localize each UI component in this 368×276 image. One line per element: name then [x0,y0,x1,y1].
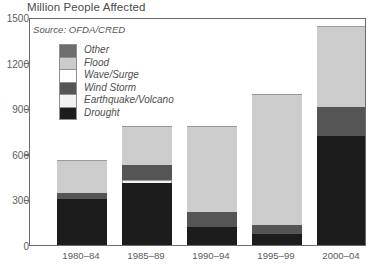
bar-segment-wind-storm [252,225,302,235]
bar-segment-drought [187,227,237,245]
legend-label: Wave/Surge [84,69,139,82]
x-tick-label-1995-99: 1995–99 [241,250,311,261]
bar-segment-drought [122,183,172,245]
legend-item-drought[interactable]: Drought [59,107,174,120]
bar-2000-04[interactable] [317,26,366,245]
bar-1980-84[interactable] [57,160,107,245]
bar-1990-94[interactable] [187,126,237,245]
legend-label: Flood [84,57,109,70]
y-tick-label-0: 0 [5,241,29,252]
legend-swatch-drought-icon [59,107,77,120]
x-tick-label-1990-94: 1990–94 [176,250,246,261]
legend-swatch-flood-icon [59,57,77,70]
y-axis: 030060090012001500 [0,0,29,276]
legend-item-earthquake-volcano[interactable]: Earthquake/Volcano [59,94,174,107]
legend-swatch-earthquake-volcano-icon [59,94,77,107]
legend-item-wind-storm[interactable]: Wind Storm [59,82,174,95]
page-title: Million People Affected [27,1,145,13]
x-tick-label-1985-89: 1985–89 [111,250,181,261]
legend-label: Other [84,44,109,57]
bar-segment-flood [122,126,172,166]
bar-segment-flood [252,94,302,225]
legend-label: Earthquake/Volcano [84,94,174,107]
bar-segment-flood [57,160,107,193]
bar-segment-flood [317,26,366,107]
x-tick-label-2000-04: 2000–04 [306,250,368,261]
legend-swatch-wind-storm-icon [59,82,77,95]
bar-1985-89[interactable] [122,126,172,245]
bar-segment-wind-storm [187,212,237,227]
bar-segment-wind-storm [122,165,172,180]
y-tick-label-1500: 1500 [5,13,29,24]
legend-item-flood[interactable]: Flood [59,57,174,70]
chart-figure: Million People Affected 0300600900120015… [0,0,368,276]
bar-segment-drought [252,234,302,245]
legend-label: Drought [84,107,120,120]
bar-segment-flood [187,126,237,212]
caption-strip [0,265,368,276]
legend-swatch-wave-surge-icon [59,69,77,82]
legend-item-wave-surge[interactable]: Wave/Surge [59,69,174,82]
source-note: Source: OFDA/CRED [33,24,125,35]
bar-segment-drought [57,199,107,245]
legend: OtherFloodWave/SurgeWind StormEarthquake… [59,44,174,120]
bar-segment-drought [317,136,366,245]
legend-item-other[interactable]: Other [59,44,174,57]
legend-label: Wind Storm [84,82,136,95]
bar-1995-99[interactable] [252,94,302,245]
bar-segment-wind-storm [317,107,366,137]
legend-swatch-other-icon [59,44,77,57]
x-tick-label-1980-84: 1980–84 [46,250,116,261]
